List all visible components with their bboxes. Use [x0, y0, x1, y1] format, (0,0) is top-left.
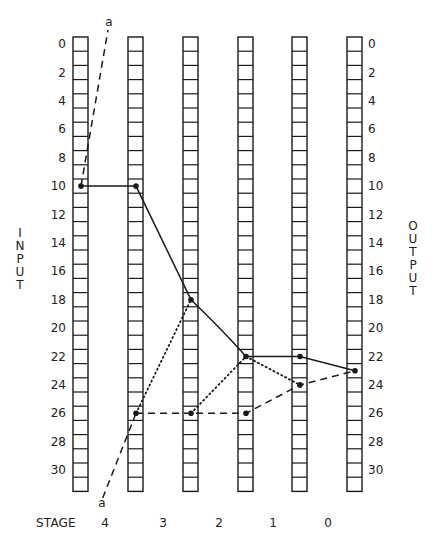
- input-row-label: 30: [42, 464, 66, 476]
- cell-column-4: [292, 37, 307, 491]
- stage-label-0: 0: [324, 516, 332, 530]
- marker-a-top: a: [105, 16, 112, 28]
- input-row-label: 22: [42, 351, 66, 363]
- output-row-label: 2: [368, 67, 392, 79]
- input-row-label: 2: [42, 67, 66, 79]
- input-row-label: 6: [42, 123, 66, 135]
- state-dot: [133, 183, 139, 189]
- state-dot: [188, 411, 194, 417]
- input-row-label: 10: [42, 180, 66, 192]
- output-row-label: 16: [368, 265, 392, 277]
- stage-label-1: 1: [269, 516, 277, 530]
- state-dot: [352, 368, 358, 374]
- output-row-label: 26: [368, 407, 392, 419]
- input-row-label: 16: [42, 265, 66, 277]
- stage-label-3: 3: [159, 516, 167, 530]
- input-row-label: 0: [42, 38, 66, 50]
- stage-label-4: 4: [101, 516, 109, 530]
- state-dots: [78, 183, 358, 416]
- transition-paths: [81, 30, 355, 499]
- state-dot: [243, 411, 249, 417]
- state-dot: [243, 354, 249, 360]
- output-row-label: 28: [368, 436, 392, 448]
- cell-column-0: [73, 37, 88, 491]
- input-row-label: 18: [42, 294, 66, 306]
- input-row-label: 20: [42, 322, 66, 334]
- cell-column-1: [128, 37, 143, 491]
- output-row-label: 0: [368, 38, 392, 50]
- input-axis-label: INPUT: [14, 227, 26, 292]
- input-row-label: 14: [42, 237, 66, 249]
- dotted-path-2: [191, 357, 300, 414]
- output-row-label: 10: [368, 180, 392, 192]
- output-row-label: 22: [368, 351, 392, 363]
- cell-columns: [73, 37, 362, 491]
- state-dot: [188, 297, 194, 303]
- output-row-label: 4: [368, 95, 392, 107]
- output-row-label: 12: [368, 209, 392, 221]
- state-dot: [297, 354, 303, 360]
- a-line-bottom: [103, 413, 137, 498]
- output-row-label: 30: [368, 464, 392, 476]
- state-dot: [78, 183, 84, 189]
- input-row-label: 8: [42, 152, 66, 164]
- input-row-label: 26: [42, 407, 66, 419]
- input-row-label: 12: [42, 209, 66, 221]
- output-row-label: 8: [368, 152, 392, 164]
- marker-a-bottom: a: [98, 497, 105, 509]
- output-row-label: 20: [368, 322, 392, 334]
- state-dot: [133, 411, 139, 417]
- cell-column-2: [183, 37, 198, 491]
- input-row-label: 24: [42, 379, 66, 391]
- output-row-label: 18: [368, 294, 392, 306]
- cell-column-5: [347, 37, 362, 491]
- solid-path: [81, 186, 355, 371]
- stage-label-2: 2: [215, 516, 223, 530]
- output-axis-label: OUTPUT: [407, 220, 419, 298]
- cell-column-3: [238, 37, 253, 491]
- state-dot: [297, 382, 303, 388]
- output-row-label: 6: [368, 123, 392, 135]
- output-row-label: 24: [368, 379, 392, 391]
- input-row-label: 28: [42, 436, 66, 448]
- stage-axis-label: STAGE: [36, 516, 76, 530]
- input-row-label: 4: [42, 95, 66, 107]
- output-row-label: 14: [368, 237, 392, 249]
